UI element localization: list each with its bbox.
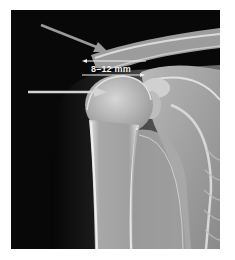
shoulder-xray-image: 8–12 mm	[11, 10, 220, 249]
xray-graphic	[11, 10, 220, 249]
measurement-label: 8–12 mm	[91, 64, 131, 74]
